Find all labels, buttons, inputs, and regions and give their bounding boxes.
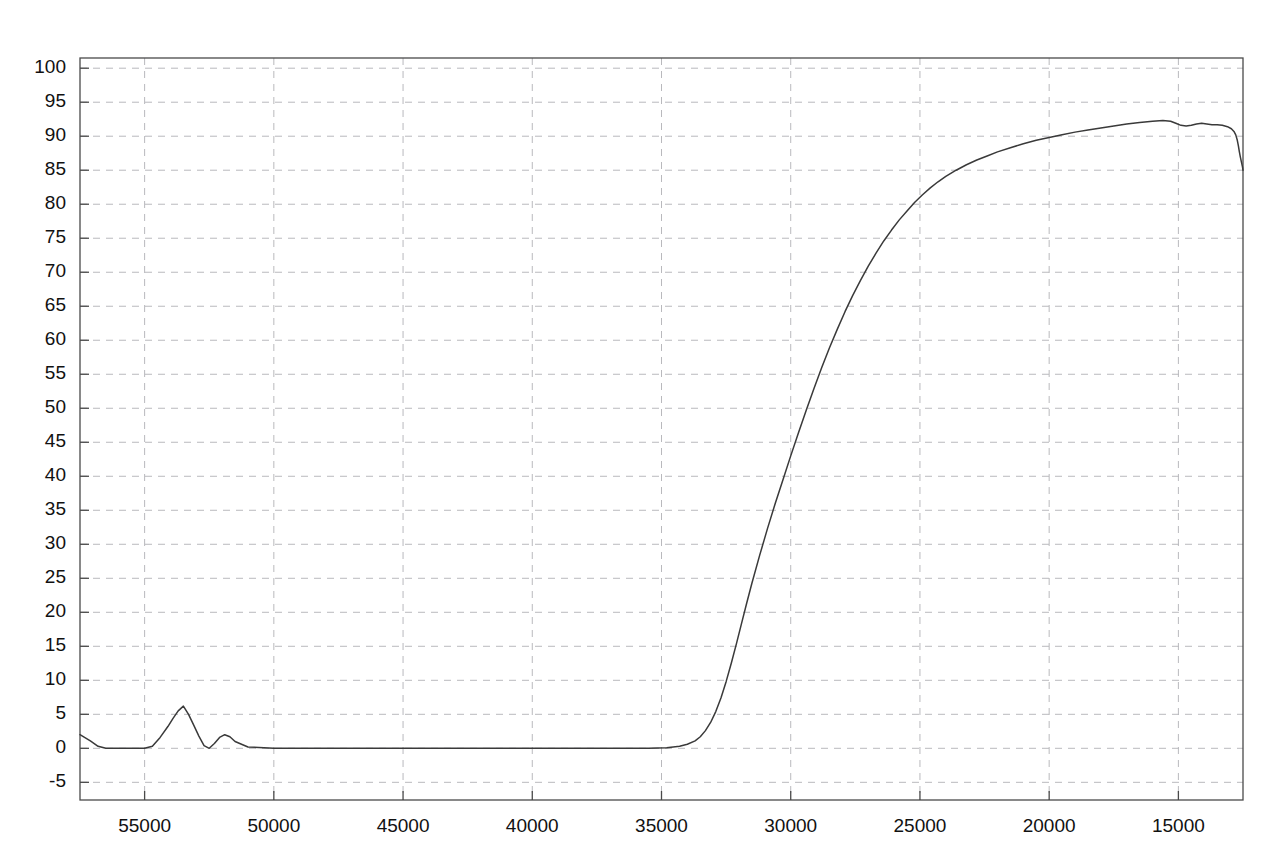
y-tick-label: 55 (45, 362, 66, 383)
y-tick-label: 70 (45, 260, 66, 281)
x-tick-label: 40000 (506, 815, 559, 836)
x-tick-label: 55000 (118, 815, 171, 836)
y-axis-ticks (80, 68, 89, 782)
y-tick-label: 30 (45, 532, 66, 553)
x-tick-label: 35000 (635, 815, 688, 836)
y-tick-label: 45 (45, 430, 66, 451)
y-tick-label: 15 (45, 634, 66, 655)
y-tick-label: -5 (49, 770, 66, 791)
y-tick-label: 40 (45, 464, 66, 485)
x-axis-ticks (145, 791, 1179, 800)
y-tick-label: 90 (45, 124, 66, 145)
y-tick-label: 65 (45, 294, 66, 315)
x-axis-tick-labels: 5500050000450004000035000300002500020000… (118, 815, 1205, 836)
y-tick-label: 5 (55, 702, 66, 723)
y-tick-label: 95 (45, 90, 66, 111)
x-tick-label: 25000 (894, 815, 947, 836)
y-axis-tick-labels: -505101520253035404550556065707580859095… (34, 56, 66, 791)
x-tick-label: 15000 (1152, 815, 1205, 836)
x-tick-label: 45000 (377, 815, 430, 836)
y-tick-label: 50 (45, 396, 66, 417)
y-tick-label: 0 (55, 736, 66, 757)
y-tick-label: 20 (45, 600, 66, 621)
x-tick-label: 30000 (764, 815, 817, 836)
y-tick-label: 60 (45, 328, 66, 349)
y-tick-label: 10 (45, 668, 66, 689)
gridlines-vertical (145, 58, 1179, 800)
x-tick-label: 50000 (247, 815, 300, 836)
y-tick-label: 80 (45, 192, 66, 213)
y-tick-label: 100 (34, 56, 66, 77)
y-tick-label: 75 (45, 226, 66, 247)
y-tick-label: 85 (45, 158, 66, 179)
y-tick-label: 25 (45, 566, 66, 587)
spectrum-chart: -505101520253035404550556065707580859095… (0, 0, 1287, 866)
y-tick-label: 35 (45, 498, 66, 519)
x-tick-label: 20000 (1023, 815, 1076, 836)
chart-canvas: -505101520253035404550556065707580859095… (0, 0, 1287, 866)
